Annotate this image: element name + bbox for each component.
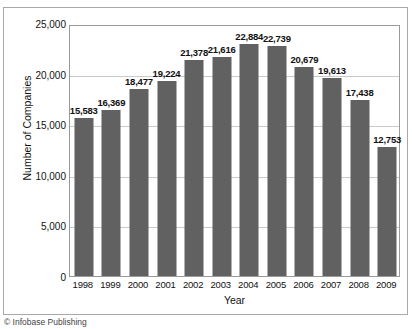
bar[interactable] [295,67,314,276]
x-axis-tick-label: 2000 [128,279,148,290]
bar-band: 15,583 [70,26,98,276]
bar-value-label: 20,679 [291,54,319,65]
bar[interactable] [74,118,93,276]
x-axis-tick-label: 2006 [293,279,313,290]
bar-band: 16,369 [98,26,126,276]
y-axis-tick-label: 15,000 [22,120,66,131]
bar-value-label: 19,224 [153,68,181,79]
bar-band: 22,884 [236,26,264,276]
bar[interactable] [102,110,121,276]
bar-value-label: 22,884 [235,31,263,42]
y-axis-tick-label: 25,000 [22,19,66,30]
bar[interactable] [240,44,259,276]
bar[interactable] [350,100,369,276]
bar-band: 21,378 [180,26,208,276]
bar-band: 20,679 [291,26,319,276]
plot-area: 15,58316,36918,47719,22421,37821,61622,8… [69,25,400,277]
x-axis-tick-label: 1998 [73,279,93,290]
y-axis-tick-label: 10,000 [22,170,66,181]
bar[interactable] [157,81,176,276]
bar-band: 22,739 [263,26,291,276]
bar-value-label: 15,583 [70,105,98,116]
bar[interactable] [267,46,286,276]
bar[interactable] [212,57,231,276]
bar[interactable] [129,89,148,276]
bar-value-label: 21,616 [208,44,236,55]
bar-value-label: 22,739 [263,33,291,44]
bar[interactable] [378,147,397,276]
x-axis-tick-label: 2001 [155,279,175,290]
x-axis-tick-label: 2005 [266,279,286,290]
figure-frame: Number of Companies 05,00010,00015,00020… [3,7,408,315]
bar-value-label: 16,369 [97,97,125,108]
bar[interactable] [185,60,204,276]
bar-value-label: 17,438 [346,87,374,98]
bar-band: 12,753 [373,26,401,276]
x-axis-tick-label: 2003 [211,279,231,290]
x-axis-tick-label: 1999 [100,279,120,290]
chart-title-cropped [0,0,412,5]
bar[interactable] [323,78,342,276]
bar-value-label: 21,378 [180,47,208,58]
x-axis-title: Year [69,294,400,306]
bar-value-label: 18,477 [125,76,153,87]
y-axis-tick-labels: 05,00010,00015,00020,00025,000 [22,25,66,277]
x-axis-tick-label: 2004 [238,279,258,290]
x-axis-tick-label: 2002 [183,279,203,290]
publisher-credit: © Infobase Publishing [4,317,87,327]
y-axis-tick-label: 5,000 [22,221,66,232]
bar-band: 17,438 [346,26,374,276]
bar-band: 21,616 [208,26,236,276]
x-axis-tick-label: 2007 [321,279,341,290]
x-axis-tick-labels: 1998199920002001200220032004200520062007… [69,279,400,293]
bar-band: 18,477 [125,26,153,276]
bar-band: 19,224 [153,26,181,276]
bars-layer: 15,58316,36918,47719,22421,37821,61622,8… [70,26,399,276]
bar-band: 19,613 [318,26,346,276]
x-axis-tick-label: 2008 [348,279,368,290]
y-axis-tick-label: 20,000 [22,69,66,80]
bar-value-label: 12,753 [373,134,401,145]
bar-value-label: 19,613 [318,65,346,76]
x-axis-tick-label: 2009 [376,279,396,290]
y-axis-tick-label: 0 [22,272,66,283]
